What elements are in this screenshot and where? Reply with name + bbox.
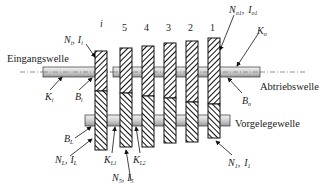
label-KL1: KL1 [103, 154, 117, 166]
gear-number-1: 1 [210, 22, 215, 33]
gear-number-2: 2 [188, 22, 193, 33]
gear-pair-3 [164, 43, 176, 143]
gear-number-4: 4 [144, 22, 149, 33]
gear-pair-2 [186, 41, 198, 142]
label-Bi: Bi [75, 91, 83, 103]
gear-pair-5 [120, 48, 132, 147]
label-N5-I5: N5,I5 [111, 172, 134, 184]
label-Ki: Ki [44, 91, 54, 103]
gear-pair-1 [208, 38, 220, 138]
gear-number-3: 3 [166, 22, 171, 33]
gearbox-diagram: i 5 4 3 2 1 Eingangswelle Abtriebswelle … [0, 0, 324, 191]
label-No-Io: No1,Io1 [228, 4, 258, 16]
label-BL: BL [64, 133, 74, 145]
label-KL2: KL2 [132, 154, 146, 166]
counter-shaft-label: Vorgelegewelle [235, 118, 300, 129]
label-Bo: Bo [242, 95, 251, 107]
gear-pair-4 [142, 46, 154, 147]
label-NL-IL: NL,IL [54, 154, 78, 166]
gear-pair-i [95, 51, 107, 150]
gear-number-i: i [100, 18, 103, 29]
gear-number-5: 5 [122, 22, 127, 33]
input-shaft-label: Eingangswelle [7, 53, 69, 64]
output-shaft-label: Abtriebswelle [260, 81, 319, 92]
label-Ni-Ii: Ni,Ii [63, 34, 83, 46]
label-N1-I1: N1,I1 [227, 157, 251, 169]
label-Ko: Ko [256, 25, 267, 37]
